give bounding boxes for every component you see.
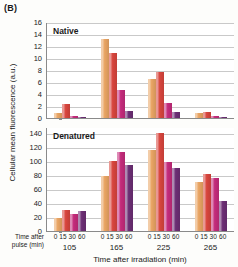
y-tick-label: 100 [29,158,42,166]
bar [101,39,109,118]
x-group-label-cell: 105 [46,244,93,252]
y-axis-ticks-native: 0246810121416 [16,23,42,119]
y-tick-label: 140 [29,130,42,138]
bar-group [187,23,234,118]
bar-group [187,128,234,231]
x-axis-subtick-labels: 0 15 30 600 15 30 600 15 30 600 15 30 60 [46,234,234,241]
x-subtick-group: 0 15 30 60 [140,234,187,241]
panel-title-denatured: Denatured [53,131,95,141]
bar [125,111,133,118]
y-tick-label: 120 [29,144,42,152]
bar [203,174,211,231]
x-group-label: 225 [140,244,187,252]
bar [148,79,156,118]
y-tick-label: 12 [34,43,42,51]
x-subtick-group: 0 15 30 60 [187,234,234,241]
y-tick-label: 8 [38,67,42,75]
bar [195,182,203,231]
bar-group [94,23,141,118]
x-group-label: 105 [46,244,93,252]
x-group-label-cell: 265 [187,244,234,252]
bar [156,133,164,231]
bar [164,162,172,231]
bar [148,150,156,232]
x-subtick-labels: 0 15 30 60 [187,234,234,241]
bar [62,104,70,118]
bar [109,53,117,118]
bar [117,152,125,231]
bar [164,103,172,118]
plot-area-native: Native [46,23,234,119]
panel-letter: (B) [4,3,17,13]
y-tick-label: 16 [34,19,42,27]
y-tick-label: 60 [34,186,42,194]
x-subtick-group: 0 15 30 60 [93,234,140,241]
bar [78,117,86,118]
bar [219,201,227,231]
bar-groups-native [47,23,234,118]
y-tick-label: 14 [34,31,42,39]
y-tick-label: 10 [34,55,42,63]
bar [195,113,203,118]
x-axis-label: Time after irradiation (min) [46,255,234,264]
panel-title-native: Native [53,26,79,36]
bar [219,117,227,118]
x-subtick-group: 0 15 30 60 [46,234,93,241]
y-axis-ticks-denatured: 020406080100120140 [16,128,42,232]
x-group-label-cell: 225 [140,244,187,252]
figure-panel-b: (B) Cellular mean fluorescence (a.u.) 02… [0,0,238,267]
bar [211,116,219,118]
x-subtick-labels: 0 15 30 60 [93,234,140,241]
bar [54,113,62,118]
y-tick-label: 2 [38,103,42,111]
bar [78,211,86,231]
bar-group [141,23,188,118]
bar [156,72,164,118]
bar [54,218,62,231]
x-group-label: 165 [93,244,140,252]
bar-groups-denatured [47,128,234,231]
y-tick-label: 80 [34,172,42,180]
bar [70,116,78,118]
x-group-label: 265 [187,244,234,252]
bar [172,112,180,118]
pulse-time-caption: Time after pulse (min) [0,233,46,249]
x-subtick-labels: 0 15 30 60 [46,234,93,241]
x-axis-group-labels: 105165225265 [46,244,234,252]
bar [109,161,117,231]
bar-group [47,128,94,231]
bar [101,176,109,231]
y-tick-label: 6 [38,79,42,87]
bar [70,214,78,231]
y-tick-mark [59,119,62,120]
y-tick-label: 4 [38,91,42,99]
bar-group [47,23,94,118]
bar [62,210,70,231]
bar-group [141,128,188,231]
x-group-label-cell: 165 [93,244,140,252]
plot-area-denatured: Denatured [46,128,234,232]
bar [125,165,133,231]
y-tick-label: 40 [34,200,42,208]
bar-group [94,128,141,231]
pulse-caption-line2: pulse (min) [0,241,44,249]
x-subtick-labels: 0 15 30 60 [140,234,187,241]
pulse-caption-line1: Time after [0,233,44,241]
bar [203,112,211,118]
y-tick-label: 0 [38,115,42,123]
bar [117,90,125,118]
bar [172,168,180,231]
y-tick-label: 20 [34,214,42,222]
bar [211,178,219,231]
